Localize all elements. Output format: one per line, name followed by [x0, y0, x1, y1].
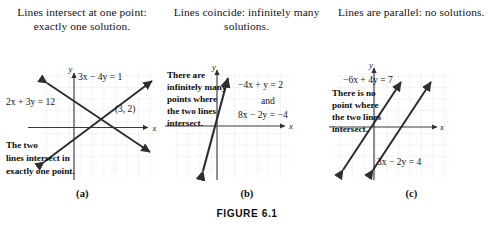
intersection-point-label: (3, 2)	[115, 104, 135, 115]
panel-b-letter: (b)	[165, 188, 330, 199]
equation-8x-minus-2y: 8x − 2y = −4	[238, 109, 288, 120]
panel-row: Lines intersect at one point: exactly on…	[0, 0, 494, 200]
panel-b-note-line-4: the two lines	[167, 106, 216, 116]
y-axis-label: y	[67, 64, 72, 74]
panel-a-note-line-1: The two	[6, 140, 38, 150]
panel-c-plot: y x −6x + 4y = 7 3x − 2y = 4 There is no…	[329, 64, 494, 194]
panel-b-plot: y x −4x + y = 2 and 8x − 2y = −4 There a…	[165, 64, 330, 194]
panel-a-svg: y x 3x − 4y = 1 2x + 3y = 12 (3, 2) The …	[0, 64, 165, 194]
equation-neg4x-plus-y: −4x + y = 2	[238, 79, 283, 90]
panel-c-note-line-4: intersect.	[332, 124, 368, 134]
panel-c-heading: Lines are parallel: no solutions.	[333, 6, 489, 20]
x-axis-label: x	[439, 122, 444, 132]
x-axis-label: x	[288, 121, 293, 131]
y-axis-label: y	[211, 64, 216, 72]
equation-2x-3y: 2x + 3y = 12	[6, 96, 55, 107]
panel-c-note-line-2: point where	[332, 100, 379, 110]
x-axis-label: x	[151, 123, 156, 133]
panel-a-note-line-3: exactly one point.	[6, 166, 75, 176]
equation-3x-minus-2y: 3x − 2y = 4	[377, 156, 422, 167]
equation-conjunction-and: and	[261, 95, 275, 106]
panel-c-note-line-1: There is no	[332, 88, 376, 98]
panel-b-svg: y x −4x + y = 2 and 8x − 2y = −4 There a…	[165, 64, 330, 194]
equation-neg6x-plus-4y: −6x + 4y = 7	[343, 74, 393, 85]
panel-b: Lines coincide: infinitely many solution…	[165, 0, 330, 200]
panel-c-note-line-3: the two lines	[332, 112, 381, 122]
panel-a: Lines intersect at one point: exactly on…	[0, 0, 165, 200]
panel-a-note-line-2: lines intersect in	[6, 153, 70, 163]
figure-6-1: Lines intersect at one point: exactly on…	[0, 0, 494, 234]
panel-b-note-line-3: points where	[167, 94, 217, 104]
panel-b-note-line-2: infinitely many	[167, 82, 227, 92]
panel-b-note-line-5: intersect.	[167, 118, 203, 128]
panel-c: Lines are parallel: no solutions.	[329, 0, 494, 200]
panel-b-note-line-1: There are	[167, 70, 205, 80]
y-axis-label: y	[368, 64, 373, 70]
panel-c-letter: (c)	[329, 188, 494, 199]
panel-c-svg: y x −6x + 4y = 7 3x − 2y = 4 There is no…	[329, 64, 494, 194]
equation-3x-4y: 3x − 4y = 1	[78, 71, 123, 82]
panel-b-heading: Lines coincide: infinitely many solution…	[169, 6, 325, 33]
panel-a-plot: y x 3x − 4y = 1 2x + 3y = 12 (3, 2) The …	[0, 64, 165, 194]
panel-a-heading: Lines intersect at one point: exactly on…	[4, 6, 160, 33]
panel-a-letter: (a)	[0, 188, 165, 199]
figure-caption: FIGURE 6.1	[0, 208, 494, 219]
